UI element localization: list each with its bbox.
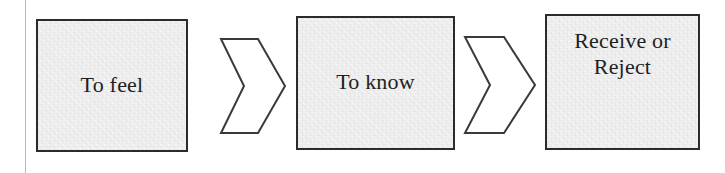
diagram-canvas: To feel To know Receive or Reject <box>0 0 725 173</box>
chevron-right-arrow-icon <box>218 36 288 136</box>
process-node-know-label: To know <box>336 69 415 97</box>
chevron-right-arrow-icon <box>462 34 538 136</box>
page-margin-rule <box>25 0 26 173</box>
process-node-feel[interactable]: To feel <box>36 19 188 152</box>
process-node-result[interactable]: Receive or Reject <box>545 14 700 150</box>
process-node-result-label: Receive or Reject <box>574 16 671 80</box>
process-node-know[interactable]: To know <box>296 16 455 150</box>
process-node-feel-label: To feel <box>81 72 144 100</box>
